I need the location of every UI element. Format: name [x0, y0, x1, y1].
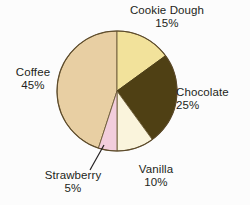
slice-label-chocolate-value: 25%	[176, 99, 250, 112]
slice-label-chocolate-name: Chocolate	[176, 86, 250, 99]
pie-chart-figure: Cookie Dough 15% Chocolate 25% Vanilla 1…	[0, 0, 250, 205]
slice-label-vanilla: Vanilla 10%	[123, 163, 189, 190]
slice-label-chocolate: Chocolate 25%	[176, 86, 250, 113]
slice-label-coffee: Coffee 45%	[2, 66, 64, 93]
slice-label-cookie-dough: Cookie Dough 15%	[104, 4, 230, 31]
slice-label-vanilla-name: Vanilla	[123, 163, 189, 176]
slice-label-vanilla-value: 10%	[123, 176, 189, 189]
slice-label-cookie-dough-value: 15%	[104, 17, 230, 30]
slice-label-cookie-dough-name: Cookie Dough	[104, 4, 230, 17]
slice-label-coffee-value: 45%	[2, 79, 64, 92]
slice-label-strawberry-value: 5%	[28, 182, 118, 195]
strawberry-leader-line	[90, 145, 104, 170]
slice-label-coffee-name: Coffee	[2, 66, 64, 79]
slice-label-strawberry: Strawberry 5%	[28, 169, 118, 196]
slice-label-strawberry-name: Strawberry	[28, 169, 118, 182]
